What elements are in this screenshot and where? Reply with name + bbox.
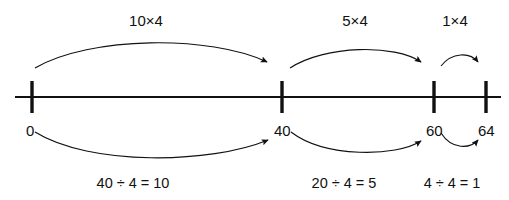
top-operation-label-2: 5×4: [342, 13, 367, 28]
diagram-canvas: [0, 0, 509, 200]
top-arrow-group: [35, 43, 478, 68]
bottom-equation-label-2: 20 ÷ 4 = 5: [312, 176, 377, 191]
number-line-axis: [15, 81, 501, 113]
arrow-60-to-64: [441, 55, 478, 66]
arrow-40-to-60: [290, 50, 421, 68]
arrow-40-to-60-lower: [291, 132, 421, 152]
bottom-equation-label-3: 4 ÷ 4 = 1: [424, 176, 481, 191]
tick-label-64: 64: [478, 123, 495, 138]
tick-label-0: 0: [26, 123, 34, 138]
tick-label-40: 40: [274, 123, 291, 138]
arrow-0-to-40: [35, 43, 267, 68]
tick-label-60: 60: [426, 123, 443, 138]
arrow-0-to-40-lower: [35, 132, 268, 158]
top-operation-label-3: 1×4: [442, 13, 467, 28]
bottom-equation-label-1: 40 ÷ 4 = 10: [97, 176, 170, 191]
top-operation-label-1: 10×4: [129, 13, 163, 28]
arrow-60-to-64-lower: [441, 133, 478, 146]
number-line-diagram: 10×4 5×4 1×4 0 40 60 64 40 ÷ 4 = 10 20 ÷…: [0, 0, 509, 200]
bottom-arrow-group: [35, 132, 478, 158]
